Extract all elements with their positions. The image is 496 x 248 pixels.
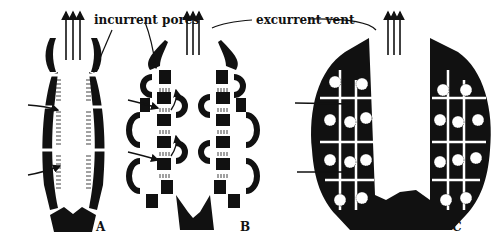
sponge-diagram: incurrent pores excurrent vent A B C <box>0 0 496 248</box>
panel-label-a: A <box>96 220 105 234</box>
panel-label-c: C <box>452 220 462 234</box>
panel-a-body <box>28 12 112 232</box>
incurrent-pores-label: incurrent pores <box>94 13 199 27</box>
excurrent-vent-label: excurrent vent <box>256 13 354 27</box>
panel-label-b: B <box>240 220 250 234</box>
panel-b-body <box>126 12 260 230</box>
panel-c-body <box>295 12 491 230</box>
diagram-art <box>0 0 496 248</box>
